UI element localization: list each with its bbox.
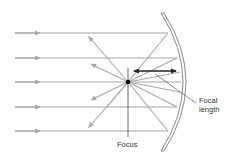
reflected-ray-4 — [128, 82, 177, 107]
concave-mirror-diagram — [0, 0, 237, 163]
focal-length-label: Focal length — [199, 96, 219, 114]
focus-point — [126, 80, 130, 84]
focal-length-label-line1: Focal — [199, 96, 219, 105]
focus-label: Focus — [117, 140, 137, 149]
focal-length-label-line2: length — [199, 105, 219, 114]
reflected-ray-2 — [128, 58, 177, 82]
